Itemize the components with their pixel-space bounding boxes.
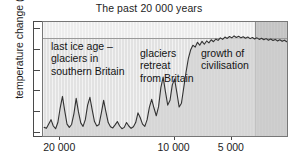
- y-axis: [33, 21, 42, 137]
- y-axis-tick: [34, 28, 40, 29]
- annotation-growth-of-civilisation: growth of civilisation: [201, 47, 249, 72]
- annotation-last-ice-age: last ice age – glaciers in southern Brit…: [51, 40, 125, 77]
- y-axis-tick: [34, 70, 40, 71]
- x-axis-tick: [231, 137, 232, 140]
- y-axis-tick: [34, 111, 40, 112]
- y-axis-label-container: temperature change (°C): [9, 0, 23, 101]
- y-axis-tick: [34, 132, 40, 133]
- x-axis-tick-label: 5 000: [218, 141, 244, 153]
- y-axis-tick: [34, 49, 40, 50]
- chart-title: The past 20 000 years: [0, 2, 298, 14]
- x-axis-tick-labels: 20 00010 0005 000: [42, 141, 288, 157]
- x-axis-tick: [174, 137, 175, 140]
- x-axis-tick-label: 20 000: [43, 141, 75, 153]
- annotation-glaciers-retreat: glaciers retreat from Britain: [140, 47, 194, 84]
- x-axis-tick: [59, 137, 60, 140]
- chart-figure: The past 20 000 years temperature change…: [0, 0, 298, 165]
- y-axis-label: temperature change (°C): [13, 0, 25, 99]
- x-axis-tick-label: 10 000: [158, 141, 190, 153]
- y-axis-tick: [34, 90, 40, 91]
- plot-area: last ice age – glaciers in southern Brit…: [42, 21, 288, 137]
